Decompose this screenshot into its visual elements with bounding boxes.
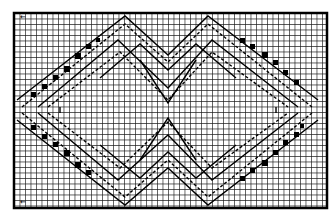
pattern-chart bbox=[0, 0, 336, 221]
top-left-arrow-icon: ← bbox=[20, 14, 26, 21]
grid bbox=[14, 13, 327, 208]
bottom-left-arrow-icon: ← bbox=[20, 199, 26, 206]
